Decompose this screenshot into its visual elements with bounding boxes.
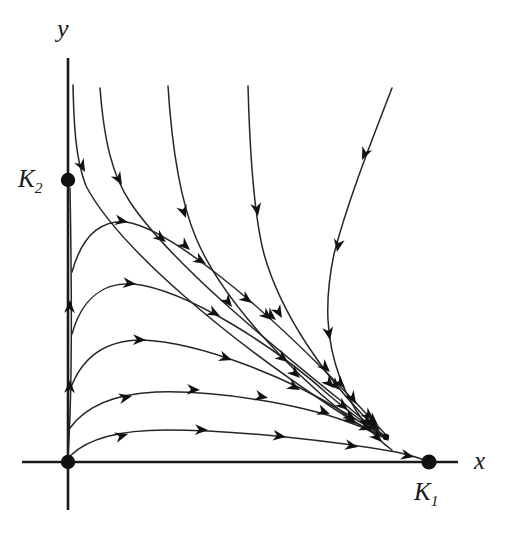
arrow-head-icon: [111, 171, 127, 188]
equilibrium-point-interior-dot: [383, 434, 389, 440]
arrow-head-icon: [195, 424, 208, 435]
arrow-head-icon: [187, 384, 201, 395]
k2-subscript: 2: [35, 179, 43, 196]
arrow-marker: [64, 300, 75, 313]
k2-equilibrium-label: K2: [18, 165, 42, 197]
equilibrium-point-K2-point: [61, 173, 75, 187]
arrow-marker: [114, 429, 129, 443]
arrow-marker: [218, 351, 234, 365]
k2-letter: K: [18, 165, 35, 192]
arrow-head-icon: [177, 237, 194, 254]
trajectory-curve: [328, 88, 392, 450]
k1-letter: K: [414, 478, 431, 505]
equilibrium-point-K1-point: [421, 454, 436, 469]
arrow-marker: [114, 214, 129, 227]
arrow-marker: [177, 237, 194, 254]
axes-group: [22, 58, 458, 510]
arrow-marker: [195, 424, 208, 435]
arrow-head-icon: [114, 429, 129, 443]
equilibrium-point-origin: [61, 455, 75, 469]
arrow-head-icon: [114, 214, 129, 227]
k1-equilibrium-label: K1: [414, 478, 438, 510]
trajectories-group: [68, 85, 427, 461]
arrow-head-icon: [218, 351, 234, 365]
arrow-marker: [187, 384, 201, 395]
arrow-head-icon: [64, 300, 75, 313]
arrow-marker: [206, 305, 223, 321]
x-axis-label: x: [474, 447, 485, 475]
y-axis-label: y: [57, 14, 69, 44]
arrow-marker: [111, 171, 127, 188]
phase-plane-canvas: [0, 0, 517, 543]
k1-subscript: 1: [431, 492, 439, 509]
trajectory-curve: [248, 86, 388, 440]
arrow-head-icon: [206, 305, 223, 321]
phase-portrait-figure: y x K2 K1: [0, 0, 517, 543]
